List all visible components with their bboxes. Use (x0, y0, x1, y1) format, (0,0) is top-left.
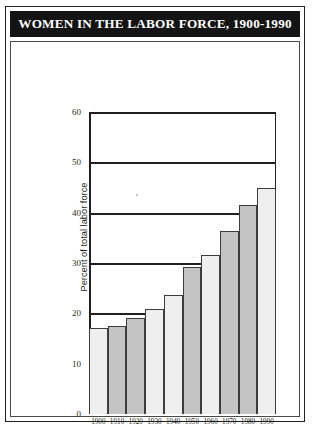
y-tick-label: 60 (72, 107, 81, 117)
chart-card: 0102030405060 Percent of total labor for… (10, 41, 300, 417)
x-axis-labels: 1900191019201930194019501960197019801990 (89, 418, 276, 426)
x-tick-label: 1920 (126, 418, 145, 426)
bar-1920 (126, 318, 145, 414)
x-tick-label: 1960 (201, 418, 220, 426)
paper-speck (136, 194, 138, 196)
bar-1960 (201, 255, 220, 414)
bar-series (89, 112, 276, 414)
x-tick-label: 1940 (164, 418, 183, 426)
bar-1950 (183, 267, 202, 414)
bar-1940 (164, 295, 183, 414)
chart-page: WOMEN IN THE LABOR FORCE, 1900-1990 0102… (0, 0, 313, 433)
bar-1980 (239, 205, 258, 414)
x-tick-label: 1980 (239, 418, 258, 426)
bar-1930 (145, 309, 164, 414)
x-tick-label: 1970 (220, 418, 239, 426)
x-tick-label: 1930 (145, 418, 164, 426)
y-axis-title: Percent of total labor force (79, 157, 89, 317)
y-axis-ticks: 0102030405060 (11, 112, 89, 414)
y-tick-label: 0 (77, 409, 82, 419)
bar-1900 (89, 328, 108, 414)
x-tick-label: 1910 (108, 418, 127, 426)
plot-area (89, 112, 276, 414)
x-tick-label: 1950 (183, 418, 202, 426)
x-tick-label: 1990 (257, 418, 276, 426)
page-title: WOMEN IN THE LABOR FORCE, 1900-1990 (18, 16, 291, 32)
bar-1990 (257, 188, 276, 415)
bar-1970 (220, 231, 239, 414)
title-banner: WOMEN IN THE LABOR FORCE, 1900-1990 (10, 11, 300, 37)
bar-1910 (108, 326, 127, 414)
y-tick-label: 10 (72, 359, 81, 369)
x-tick-label: 1900 (89, 418, 108, 426)
